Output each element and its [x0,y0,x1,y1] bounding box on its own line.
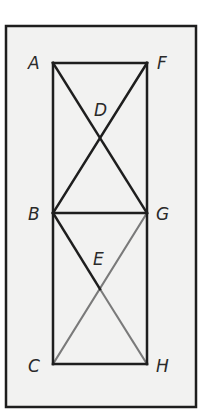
label-G: G [156,204,169,224]
geometry-figure: A F D B G E C H [0,0,203,414]
label-H: H [156,356,169,376]
label-E: E [93,249,104,269]
label-A: A [27,53,40,73]
label-F: F [157,53,167,73]
label-D: D [94,100,107,120]
label-B: B [28,204,40,224]
label-C: C [28,356,40,376]
